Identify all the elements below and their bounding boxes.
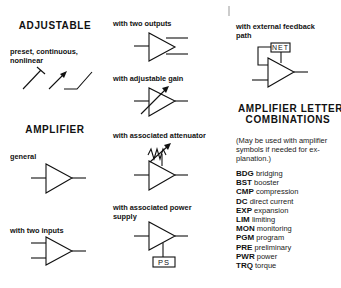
meaning: booster: [254, 178, 279, 187]
meaning: bridging: [256, 169, 283, 178]
list-item: CMP compression: [236, 187, 298, 196]
code: CMP: [236, 187, 254, 196]
meaning: expansion: [254, 206, 288, 215]
code: MON: [236, 224, 255, 233]
meaning: direct current: [250, 197, 294, 206]
list-item: LIM limiting: [236, 215, 298, 224]
combinations-heading-line1: AMPLIFIER LETTER: [238, 103, 338, 114]
meaning: limiting: [252, 215, 275, 224]
code: LIM: [236, 215, 250, 224]
code: PRE: [236, 243, 252, 252]
meaning: power: [257, 252, 277, 261]
meaning: compression: [256, 187, 299, 196]
combinations-list: BDG bridging BST booster CMP compression…: [236, 169, 298, 270]
feedback-network-box-label: NET: [271, 43, 290, 52]
code: PGM: [236, 233, 254, 242]
code: EXP: [236, 206, 252, 215]
combinations-note-line3: planation.): [236, 154, 271, 163]
list-item: MON monitoring: [236, 224, 298, 233]
meaning: monitoring: [257, 224, 292, 233]
meaning: program: [256, 233, 284, 242]
code: DC: [236, 197, 248, 206]
list-item: PGM program: [236, 233, 298, 242]
combinations-heading-line2: COMBINATIONS: [238, 114, 338, 125]
code: TRQ: [236, 261, 253, 270]
code: PWR: [236, 252, 255, 261]
list-item: BST booster: [236, 178, 298, 187]
meaning: torque: [255, 261, 276, 270]
meaning: preliminary: [255, 243, 292, 252]
list-item: EXP expansion: [236, 206, 298, 215]
list-item: DC direct current: [236, 197, 298, 206]
combinations-note-line2: symbols if needed for ex-: [236, 145, 320, 154]
list-item: PRE preliminary: [236, 243, 298, 252]
code: BST: [236, 178, 252, 187]
combinations-note-line1: (May be used with amplifier: [236, 136, 327, 145]
list-item: BDG bridging: [236, 169, 298, 178]
list-item: PWR power: [236, 252, 298, 261]
code: BDG: [236, 169, 254, 178]
list-item: TRQ torque: [236, 261, 298, 270]
